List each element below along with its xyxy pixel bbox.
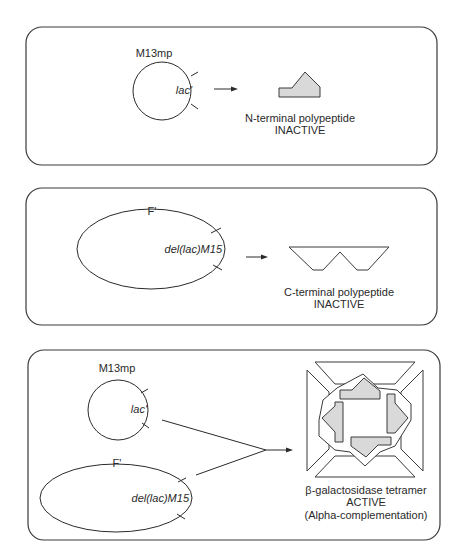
f-prime-label: F' <box>148 205 157 217</box>
c-terminal-status: INACTIVE <box>314 298 365 310</box>
lac-gene-label: lac' <box>176 84 193 96</box>
tetramer-note: (Alpha-complementation) <box>305 509 428 521</box>
panel-1-frame <box>26 27 437 165</box>
lac-marker-top <box>141 389 148 393</box>
arrow-head-icon <box>231 87 238 92</box>
converge-line-upper <box>162 420 266 450</box>
converge-line-lower <box>196 450 266 475</box>
tetramer-status: ACTIVE <box>346 496 386 508</box>
lac-gene-label: lac' <box>131 403 148 415</box>
lac-marker-bottom <box>191 104 198 109</box>
del-marker-bottom <box>177 514 185 519</box>
del-lac-m15-label: del(lac)M15 <box>165 243 223 255</box>
n-terminal-status: INACTIVE <box>275 124 326 136</box>
c-terminal-polypeptide-shape <box>289 247 389 270</box>
panel-3: M13mp lac' F' del(lac)M15 β-gal <box>28 350 440 540</box>
panel-2: F' del(lac)M15 C-terminal polypeptide IN… <box>26 188 437 325</box>
f-prime-label: F' <box>113 457 122 469</box>
n-terminal-label: N-terminal polypeptide <box>245 112 355 124</box>
beta-galactosidase-tetramer <box>307 362 423 477</box>
del-marker-top <box>211 228 221 233</box>
del-lac-m15-label: del(lac)M15 <box>132 492 190 504</box>
m13mp-label: M13mp <box>136 47 173 59</box>
arrow-head-icon <box>286 448 293 453</box>
alpha-complementation-diagram: M13mp lac' N-terminal polypeptide INACTI… <box>0 0 462 559</box>
m13mp-label: M13mp <box>99 362 136 374</box>
lac-marker-top <box>191 72 198 76</box>
n-terminal-polypeptide-shape <box>279 72 320 97</box>
panel-1: M13mp lac' N-terminal polypeptide INACTI… <box>26 27 437 165</box>
c-terminal-label: C-terminal polypeptide <box>284 286 394 298</box>
tetramer-label: β-galactosidase tetramer <box>305 484 427 496</box>
arrow-head-icon <box>261 255 268 260</box>
